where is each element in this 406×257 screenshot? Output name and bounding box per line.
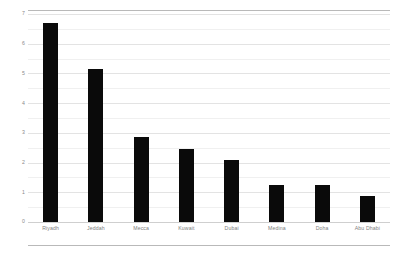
- x-tick-label: Mecca: [133, 226, 149, 231]
- y-tick-label: 5: [3, 71, 25, 76]
- gridline-minor: [28, 118, 390, 119]
- gridline-minor: [28, 207, 390, 208]
- bar: [43, 23, 58, 222]
- bar: [360, 196, 375, 222]
- gridline-minor: [28, 59, 390, 60]
- bar: [269, 185, 284, 222]
- gridline-major: [28, 163, 390, 164]
- chart-frame-top-rule: [28, 10, 390, 11]
- gridline-major: [28, 44, 390, 45]
- gridline-minor: [28, 29, 390, 30]
- gridline-major: [28, 14, 390, 15]
- bar: [88, 69, 103, 222]
- axis-baseline: [28, 222, 390, 223]
- x-axis-tick-labels: RiyadhJeddahMeccaKuwaitDubaiMedinaDohaAb…: [28, 226, 390, 240]
- bar: [134, 137, 149, 222]
- bar: [179, 149, 194, 222]
- y-tick-label: 0: [3, 219, 25, 224]
- y-tick-label: 4: [3, 101, 25, 106]
- gridline-major: [28, 192, 390, 193]
- gridline-major: [28, 103, 390, 104]
- bar: [315, 185, 330, 222]
- y-tick-label: 7: [3, 11, 25, 16]
- bar: [224, 160, 239, 222]
- x-tick-label: Dubai: [225, 226, 239, 231]
- x-tick-label: Abu Dhabi: [355, 226, 380, 231]
- gridline-major: [28, 133, 390, 134]
- x-tick-label: Jeddah: [87, 226, 105, 231]
- y-tick-label: 1: [3, 190, 25, 195]
- y-tick-label: 3: [3, 130, 25, 135]
- x-tick-label: Kuwait: [178, 226, 194, 231]
- x-tick-label: Medina: [268, 226, 286, 231]
- gridline-minor: [28, 88, 390, 89]
- y-axis-tick-labels: 76543210: [0, 14, 25, 222]
- x-tick-label: Riyadh: [42, 226, 59, 231]
- bar-chart: 76543210 RiyadhJeddahMeccaKuwaitDubaiMed…: [0, 0, 406, 257]
- y-tick-label: 6: [3, 41, 25, 46]
- y-tick-label: 2: [3, 160, 25, 165]
- chart-frame-bottom-rule: [28, 245, 390, 246]
- plot-area: [28, 14, 390, 222]
- x-tick-label: Doha: [316, 226, 329, 231]
- gridline-minor: [28, 148, 390, 149]
- gridline-minor: [28, 177, 390, 178]
- gridline-major: [28, 73, 390, 74]
